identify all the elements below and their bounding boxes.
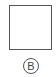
option-label-badge: B [23, 58, 39, 74]
option-figure-square [9, 5, 52, 50]
option-letter: B [27, 61, 34, 72]
